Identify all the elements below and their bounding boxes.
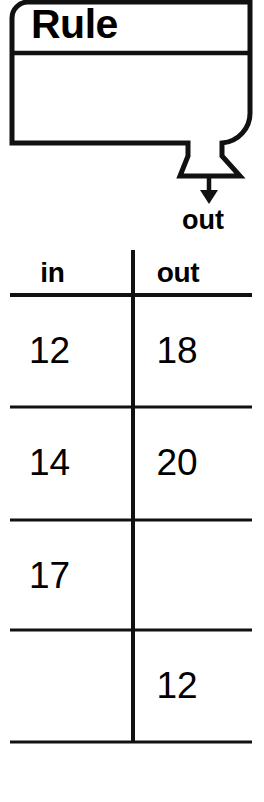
table-cell-in-2: 14 [10,407,133,519]
rule-label: Rule [31,1,118,47]
worksheet-page: Rule out in out 12 18 14 20 17 12 [0,0,264,802]
table-cell-out-3[interactable] [134,520,252,632]
output-arrow-head [200,190,218,204]
table-cell-out-4: 12 [134,630,252,742]
table-header-out: out [134,251,252,295]
table-cell-in-4[interactable] [10,630,133,742]
output-arrow-label: out [182,205,224,235]
function-machine: Rule out [0,0,264,250]
table-cell-out-1: 18 [134,295,252,407]
table-cell-in-3: 17 [10,520,133,632]
table-header-in: in [10,251,133,295]
table-cell-out-2: 20 [134,407,252,519]
table-cell-in-1: 12 [10,295,133,407]
